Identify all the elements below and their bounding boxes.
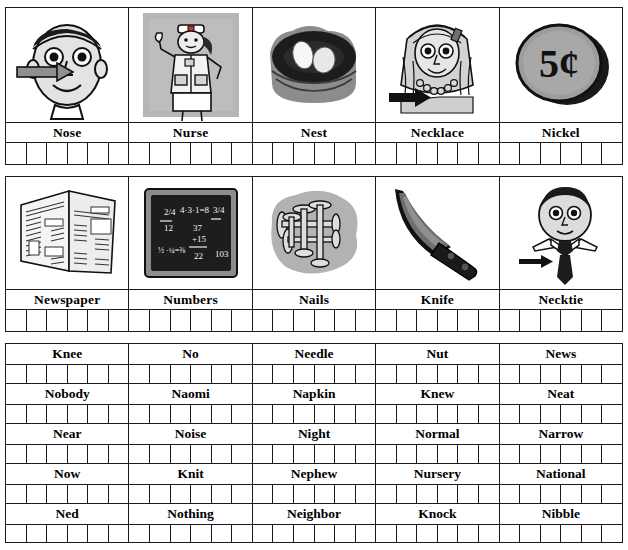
writing-box[interactable] <box>88 445 109 463</box>
writing-box[interactable] <box>315 405 336 423</box>
writing-box[interactable] <box>376 525 397 543</box>
trace-box[interactable] <box>27 143 48 164</box>
writing-box-group[interactable] <box>500 525 622 543</box>
word-cell[interactable]: Nibble <box>500 504 622 524</box>
writing-box[interactable] <box>47 485 68 503</box>
trace-box[interactable] <box>68 143 89 164</box>
trace-box[interactable] <box>47 143 68 164</box>
writing-box[interactable] <box>397 405 418 423</box>
trace-box[interactable] <box>273 143 294 164</box>
writing-box[interactable] <box>232 445 252 463</box>
writing-box[interactable] <box>273 405 294 423</box>
writing-box[interactable] <box>602 405 622 423</box>
trace-boxes[interactable] <box>376 143 498 164</box>
writing-box[interactable] <box>500 405 521 423</box>
trace-box[interactable] <box>582 143 603 164</box>
trace-boxes[interactable] <box>500 143 622 164</box>
writing-box[interactable] <box>582 365 603 383</box>
writing-box[interactable] <box>582 405 603 423</box>
writing-box[interactable] <box>520 365 541 383</box>
writing-box[interactable] <box>191 405 212 423</box>
writing-box[interactable] <box>68 405 89 423</box>
writing-box[interactable] <box>376 445 397 463</box>
word-cell[interactable]: Neighbor <box>253 504 376 524</box>
writing-box[interactable] <box>397 365 418 383</box>
writing-box[interactable] <box>129 445 150 463</box>
writing-box[interactable] <box>150 445 171 463</box>
writing-box[interactable] <box>47 365 68 383</box>
trace-box[interactable] <box>479 310 499 331</box>
word-cell[interactable]: National <box>500 464 622 484</box>
trace-box[interactable] <box>129 143 150 164</box>
writing-box[interactable] <box>500 525 521 543</box>
writing-box[interactable] <box>520 405 541 423</box>
writing-box-group[interactable] <box>500 405 622 423</box>
writing-box-group[interactable] <box>376 405 499 423</box>
trace-boxes[interactable] <box>253 143 375 164</box>
trace-box[interactable] <box>273 310 294 331</box>
trace-box[interactable] <box>294 310 315 331</box>
trace-box[interactable] <box>212 143 233 164</box>
writing-box[interactable] <box>376 405 397 423</box>
picture-column-nurse[interactable]: Nurse <box>129 8 252 164</box>
picture-column-nest[interactable]: Nest <box>253 8 376 164</box>
writing-box[interactable] <box>232 405 252 423</box>
trace-box[interactable] <box>541 310 562 331</box>
writing-box[interactable] <box>541 445 562 463</box>
writing-box[interactable] <box>417 445 438 463</box>
writing-box[interactable] <box>253 485 274 503</box>
writing-box[interactable] <box>315 525 336 543</box>
writing-box[interactable] <box>376 365 397 383</box>
word-cell[interactable]: Nobody <box>6 384 129 404</box>
writing-box[interactable] <box>356 365 376 383</box>
writing-box-group[interactable] <box>6 365 129 383</box>
writing-box[interactable] <box>27 525 48 543</box>
writing-box[interactable] <box>582 485 603 503</box>
writing-box[interactable] <box>68 445 89 463</box>
writing-box[interactable] <box>541 485 562 503</box>
writing-box[interactable] <box>582 445 603 463</box>
writing-box[interactable] <box>171 445 192 463</box>
word-cell[interactable]: Nothing <box>129 504 252 524</box>
writing-box[interactable] <box>171 525 192 543</box>
trace-box[interactable] <box>602 143 622 164</box>
trace-box[interactable] <box>397 143 418 164</box>
word-cell[interactable]: No <box>129 344 252 364</box>
picture-column-nails[interactable]: Nails <box>253 177 376 331</box>
writing-box[interactable] <box>561 405 582 423</box>
trace-box[interactable] <box>602 310 622 331</box>
writing-box[interactable] <box>150 405 171 423</box>
writing-box[interactable] <box>68 485 89 503</box>
writing-box[interactable] <box>520 485 541 503</box>
writing-box[interactable] <box>150 525 171 543</box>
writing-box-group[interactable] <box>253 485 376 503</box>
trace-box[interactable] <box>500 143 521 164</box>
trace-box[interactable] <box>6 310 27 331</box>
writing-box[interactable] <box>602 445 622 463</box>
writing-box[interactable] <box>88 525 109 543</box>
trace-boxes[interactable] <box>129 310 251 331</box>
writing-box[interactable] <box>171 365 192 383</box>
writing-box[interactable] <box>479 445 499 463</box>
writing-box-group[interactable] <box>6 445 129 463</box>
writing-box[interactable] <box>458 365 479 383</box>
trace-box[interactable] <box>27 310 48 331</box>
writing-box[interactable] <box>212 365 233 383</box>
picture-column-knife[interactable]: Knife <box>376 177 499 331</box>
writing-box[interactable] <box>438 365 459 383</box>
writing-box[interactable] <box>88 485 109 503</box>
writing-box[interactable] <box>602 525 622 543</box>
trace-box[interactable] <box>520 143 541 164</box>
trace-box[interactable] <box>232 310 252 331</box>
writing-box[interactable] <box>335 525 356 543</box>
trace-box[interactable] <box>520 310 541 331</box>
writing-box[interactable] <box>68 525 89 543</box>
trace-box[interactable] <box>438 310 459 331</box>
writing-box-group[interactable] <box>500 485 622 503</box>
writing-box[interactable] <box>253 445 274 463</box>
writing-box-group[interactable] <box>129 445 252 463</box>
trace-box[interactable] <box>500 310 521 331</box>
trace-box[interactable] <box>6 143 27 164</box>
writing-box[interactable] <box>212 445 233 463</box>
trace-box[interactable] <box>335 143 356 164</box>
